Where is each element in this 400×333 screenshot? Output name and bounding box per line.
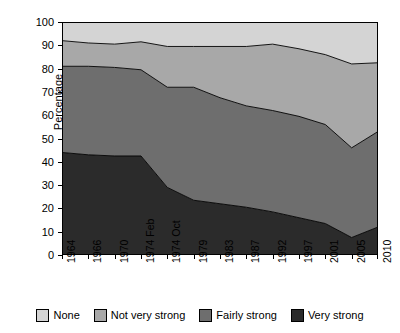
x-tick-mark [141,255,142,259]
area-series-svg [62,22,378,255]
x-tick-mark [167,255,168,259]
legend-swatch-icon [199,309,212,322]
x-tick-label: 2005 [356,240,366,263]
x-tick-label: 1974 Feb [145,219,155,263]
x-tick-mark [115,255,116,259]
chart-legend: NoneNot very strongFairly strongVery str… [0,305,400,325]
x-tick-label: 1997 [303,240,313,263]
legend-item[interactable]: Not very strong [94,309,186,322]
x-tick-mark [377,255,378,259]
x-tick-mark [325,255,326,259]
plot-area [62,22,378,255]
legend-item[interactable]: Fairly strong [199,309,277,322]
legend-swatch-icon [94,309,107,322]
x-tick-label: 1964 [66,240,76,263]
x-tick-mark [273,255,274,259]
y-tick-label: 80 [24,64,54,74]
legend-label: None [53,309,79,321]
legend-label: Very strong [308,309,364,321]
x-tick-label: 1979 [198,240,208,263]
stacked-area-chart: Percentage 0102030405060708090100 196419… [0,0,400,333]
legend-item[interactable]: Very strong [291,309,364,322]
x-tick-mark [194,255,195,259]
y-tick-label: 40 [24,157,54,167]
x-tick-mark [88,255,89,259]
y-tick-label: 70 [24,87,54,97]
y-tick-label: 30 [24,180,54,190]
x-tick-label: 2010 [382,240,392,263]
x-tick-mark [62,255,63,259]
y-tick-label: 10 [24,227,54,237]
legend-swatch-icon [291,309,304,322]
y-tick-label: 0 [24,250,54,260]
legend-label: Fairly strong [216,309,277,321]
x-tick-mark [246,255,247,259]
x-tick-label: 1987 [250,240,260,263]
legend-label: Not very strong [111,309,186,321]
y-axis: Percentage 0102030405060708090100 [0,0,62,277]
y-tick-label: 100 [24,17,54,27]
x-tick-mark [299,255,300,259]
legend-swatch-icon [36,309,49,322]
legend-item[interactable]: None [36,309,79,322]
y-tick-label: 20 [24,203,54,213]
y-tick-label: 90 [24,40,54,50]
x-tick-label: 1966 [92,240,102,263]
x-tick-mark [352,255,353,259]
x-tick-label: 1983 [224,240,234,263]
x-tick-label: 1970 [119,240,129,263]
x-tick-label: 2001 [329,240,339,263]
x-tick-label: 1992 [277,240,287,263]
y-tick-label: 60 [24,110,54,120]
x-tick-label: 1974 Oct [171,220,181,263]
x-tick-mark [220,255,221,259]
y-tick-label: 50 [24,134,54,144]
